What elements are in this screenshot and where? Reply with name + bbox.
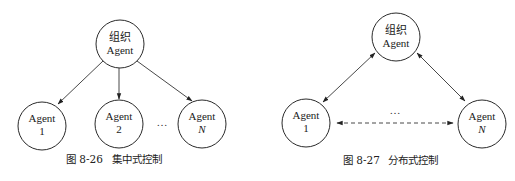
node-label-line1: Agent <box>293 109 320 121</box>
node-label-line2: 1 <box>39 125 45 137</box>
node-label-line2: Agent <box>107 44 134 56</box>
figure-number: 图 8-26 <box>66 153 103 165</box>
organization-agent-node: 组织 Agent <box>372 13 420 61</box>
agent-1-node: Agent 1 <box>282 99 330 147</box>
node-label-line1: Agent <box>29 112 56 124</box>
figure-title: 分布式控制 <box>388 154 438 166</box>
ellipsis: … <box>390 104 401 116</box>
node-label-line2: N <box>197 123 206 135</box>
node-label-line2: N <box>477 123 486 135</box>
agent-2-node: Agent 2 <box>95 100 143 148</box>
organization-agent-node: 组织 Agent <box>96 20 144 68</box>
node-label-line2: Agent <box>383 37 410 49</box>
node-label-line1: Agent <box>469 110 496 122</box>
arrow-root-to-agent-1 <box>58 61 103 104</box>
figure-number: 图 8-27 <box>343 154 380 166</box>
diagram-canvas: 组织 Agent Agent 1 Agent 2 … Agent N 图 8-2… <box>0 0 515 181</box>
ellipsis: … <box>157 116 168 128</box>
agent-n-node: Agent N <box>178 100 226 148</box>
node-label-line1: 组织 <box>109 30 131 43</box>
node-label-line1: Agent <box>189 110 216 122</box>
node-label-line1: 组织 <box>385 23 407 36</box>
agent-n-node: Agent N <box>458 100 506 148</box>
arrow-root-to-agent-n <box>137 61 192 101</box>
figure-title: 集中式控制 <box>112 153 162 165</box>
arrow-root-agent-n <box>417 53 465 101</box>
centralized-control-diagram: 组织 Agent Agent 1 Agent 2 … Agent N 图 8-2… <box>18 20 226 165</box>
distributed-control-diagram: 组织 Agent Agent 1 … Agent N 图 8-27 分布式控制 <box>282 13 506 166</box>
node-label-line2: 1 <box>303 122 309 134</box>
agent-1-node: Agent 1 <box>18 102 66 150</box>
arrow-root-agent-1 <box>323 53 375 102</box>
node-label-line2: 2 <box>116 123 122 135</box>
node-label-line1: Agent <box>106 110 133 122</box>
